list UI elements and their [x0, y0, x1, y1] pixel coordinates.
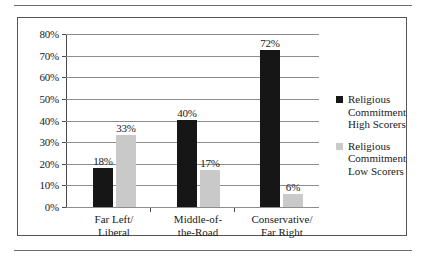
chart-legend: Religious Commitment High Scorers Religi… — [336, 93, 416, 186]
legend-label-low-scorers-line1: Religious — [348, 140, 390, 152]
y-tick-label-0: 0% — [45, 202, 59, 213]
gridline-0: 0% — [66, 207, 319, 208]
gridline-60: 60% — [66, 77, 319, 78]
legend-label-high-scorers: Religious Commitment High Scorers — [348, 93, 406, 131]
y-tick-label-60: 60% — [39, 72, 59, 83]
y-tick-label-30: 30% — [39, 137, 59, 148]
y-tick-label-50: 50% — [39, 93, 59, 104]
category-label-conservative-line2: Far Right — [251, 226, 312, 239]
legend-label-high-scorers-line3: High Scorers — [348, 118, 406, 130]
legend-entry-high-scorers[interactable]: Religious Commitment High Scorers — [336, 93, 416, 131]
tick-mark-30 — [62, 142, 66, 143]
category-label-far-left-line2: Liberal — [95, 226, 134, 239]
legend-label-high-scorers-line2: Commitment — [348, 106, 406, 118]
tick-mark-70 — [62, 56, 66, 57]
gridline-50: 50% — [66, 99, 319, 100]
bottom-rule — [14, 250, 412, 251]
legend-label-high-scorers-line1: Religious — [348, 93, 390, 105]
legend-label-low-scorers-line3: Low Scorers — [348, 165, 404, 177]
tick-mark-20 — [62, 164, 66, 165]
bar-label-far-left-low: 33% — [116, 123, 136, 134]
bar-middle-low[interactable]: 17% — [200, 170, 220, 207]
gridline-70: 70% — [66, 56, 319, 57]
y-tick-label-20: 20% — [39, 158, 59, 169]
tick-mark-10 — [62, 185, 66, 186]
y-tick-label-40: 40% — [39, 115, 59, 126]
category-separator-2 — [234, 208, 235, 212]
tick-mark-50 — [62, 99, 66, 100]
bar-label-middle-low: 17% — [200, 158, 220, 169]
tick-mark-40 — [62, 121, 66, 122]
category-label-far-left: Far Left/ Liberal — [95, 213, 134, 238]
legend-swatch-high-scorers-icon — [336, 96, 343, 103]
tick-mark-0 — [62, 207, 66, 208]
legend-label-low-scorers-line2: Commitment — [348, 152, 406, 164]
bar-label-far-left-high: 18% — [93, 156, 113, 167]
y-tick-label-80: 80% — [39, 29, 59, 40]
y-tick-label-70: 70% — [39, 50, 59, 61]
legend-entry-low-scorers[interactable]: Religious Commitment Low Scorers — [336, 140, 416, 178]
legend-swatch-low-scorers-icon — [336, 143, 343, 150]
bar-middle-high[interactable]: 40% — [177, 120, 197, 207]
bar-conservative-high[interactable]: 72% — [260, 50, 280, 207]
y-tick-label-10: 10% — [39, 180, 59, 191]
bar-far-left-low[interactable]: 33% — [116, 135, 136, 207]
bar-conservative-low[interactable]: 6% — [283, 194, 303, 207]
category-separator-1 — [150, 208, 151, 212]
category-label-conservative-line1: Conservative/ — [251, 213, 312, 226]
tick-mark-80 — [62, 34, 66, 35]
category-label-far-left-line1: Far Left/ — [95, 213, 134, 226]
category-label-middle-line1: Middle-of- — [174, 213, 222, 226]
legend-label-low-scorers: Religious Commitment Low Scorers — [348, 140, 406, 178]
category-label-middle-line2: the-Road — [174, 226, 222, 239]
top-rule — [14, 5, 412, 6]
category-label-middle: Middle-of- the-Road — [174, 213, 222, 238]
bar-far-left-high[interactable]: 18% — [93, 168, 113, 207]
bar-label-conservative-high: 72% — [260, 38, 280, 49]
category-label-conservative: Conservative/ Far Right — [251, 213, 312, 238]
gridline-80: 80% — [66, 34, 319, 35]
tick-mark-60 — [62, 77, 66, 78]
bar-label-conservative-low: 6% — [286, 182, 300, 193]
plot-area: 80% 70% 60% 50% 40% 30% 20% 10% — [66, 34, 319, 208]
bar-label-middle-high: 40% — [177, 108, 197, 119]
chart-figure-frame: 80% 70% 60% 50% 40% 30% 20% 10% — [17, 17, 407, 236]
